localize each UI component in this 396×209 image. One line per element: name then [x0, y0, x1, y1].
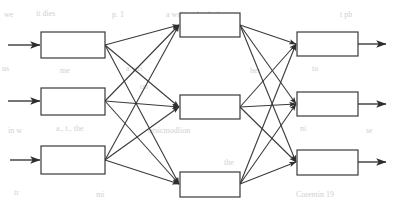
edge-i3-m1	[105, 25, 179, 160]
edge-m1-o1	[240, 25, 296, 44]
diagram-canvas	[0, 0, 396, 209]
edge-m2-o2	[240, 104, 296, 107]
input-block-1	[41, 32, 105, 58]
connection-group-input-to-middle	[105, 25, 179, 184]
block-diagram-figure: weit diesp. 1a writing lan beforet phusm…	[0, 0, 396, 209]
edge-i2-m1	[105, 25, 179, 101]
edge-i1-m1	[105, 25, 179, 45]
output-arrow-group	[358, 44, 386, 162]
edge-m1-o3	[240, 25, 296, 162]
middle-block-3	[180, 172, 240, 197]
input-block-3	[41, 146, 105, 174]
edge-m2-o1	[240, 44, 296, 107]
middle-block-2	[180, 95, 240, 119]
output-block-1	[297, 32, 358, 56]
edge-i2-m2	[105, 101, 179, 107]
block-group	[41, 13, 358, 197]
output-block-2	[297, 92, 358, 116]
edge-m3-o3	[240, 162, 296, 184]
middle-block-1	[180, 13, 240, 37]
output-block-3	[297, 150, 358, 175]
connection-group-middle-to-output	[240, 25, 296, 184]
edge-i1-m2	[105, 45, 179, 107]
input-block-2	[41, 88, 105, 115]
input-arrow-group	[8, 45, 40, 160]
